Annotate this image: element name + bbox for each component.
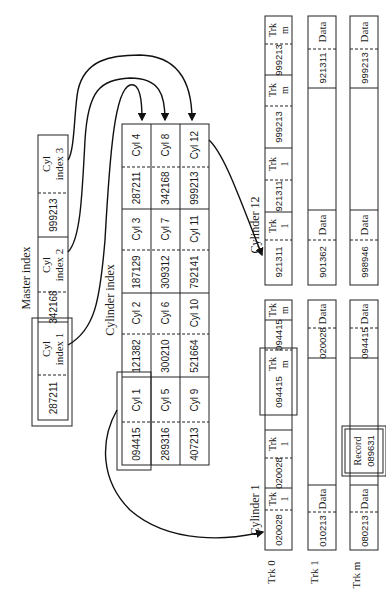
cyl-label: Cyl 1: [131, 388, 142, 411]
c12-idx-key: 999213: [273, 111, 284, 143]
cyl-key: 289316: [160, 427, 171, 461]
cyl-label: Cyl 8: [160, 133, 171, 156]
c12-idx-trk: Trk: [267, 157, 278, 171]
cylinder-12: Cylinder 12 921311 Trk 1 921311 Trk 1 99…: [248, 16, 378, 285]
cyl-label: Cyl 4: [131, 133, 142, 156]
cyl-label: Cyl 12: [189, 130, 200, 159]
cyl-key: 521664: [189, 339, 200, 373]
cyl-key: 121382: [131, 339, 142, 373]
master-index: Master index 287211 Cyl index 1 342168 C…: [19, 135, 72, 426]
c12-t1-key: 901362: [317, 246, 328, 278]
cylinder-1: Cylinder 1 Trk 0 Trk 1 Trk m 020028 Trk …: [248, 300, 386, 588]
c12-idx-num: 1: [279, 162, 290, 167]
indexed-sequential-diagram: Master index 287211 Cyl index 1 342168 C…: [0, 0, 386, 615]
record-label: Record: [352, 437, 363, 466]
master-key-2: 342168: [48, 290, 59, 324]
c12-idx-trk: Trk: [267, 23, 278, 37]
track-label-0: Trk 0: [265, 560, 277, 584]
c12-t1-key: 921311: [317, 53, 328, 84]
cyl-label: Cyl 11: [189, 215, 200, 243]
c1-idx-num: m: [279, 360, 290, 368]
c1-idx-trk: Trk: [267, 303, 278, 317]
c1-t1-label: Data: [316, 304, 328, 325]
cyl-label: Cyl 6: [160, 301, 171, 324]
master-key-1: 287211: [48, 381, 59, 414]
record-highlight: [342, 426, 386, 476]
c12-idx-num: 1: [279, 224, 290, 229]
c12-tm-key: 998946: [359, 246, 370, 278]
c1-idx-key: 094415: [273, 376, 284, 408]
arrow-master-3-to-cyl-12: [68, 55, 192, 160]
cyl-key: 094415: [131, 427, 142, 461]
cyl-label: Cyl 9: [189, 388, 200, 411]
cyl-key: 407213: [189, 427, 200, 461]
cyl-key: 187129: [131, 255, 142, 289]
c1-tm-key: 080213: [359, 515, 370, 547]
cyl-key: 342168: [160, 171, 171, 205]
cylinder-1-title: Cylinder 1: [248, 485, 262, 536]
c12-idx-key: 999213: [273, 44, 284, 76]
c12-idx-trk: Trk: [267, 83, 278, 97]
cyl-label: Cyl 10: [189, 298, 200, 327]
c12-idx-key: 921311: [273, 181, 284, 212]
cyl-label: Cyl 5: [160, 388, 171, 411]
c12-tm-key: 999213: [359, 52, 370, 84]
cyl-label: Cyl 3: [131, 217, 142, 240]
cyl-key: 300210: [160, 339, 171, 373]
c1-tm-label: Data: [358, 304, 370, 325]
c12-idx-num: m: [279, 86, 290, 94]
master-label-2a: Cyl: [40, 257, 52, 273]
c1-tm-label: Data: [358, 489, 370, 510]
arrow-master-2-to-cyl-8: [68, 78, 165, 252]
cyl-key: 999213: [189, 171, 200, 205]
c1-idx-key: 020028: [273, 457, 284, 489]
c1-tm-key: 094415: [359, 327, 370, 359]
cyl-label: Cyl 2: [131, 301, 142, 324]
c1-idx-num: 1: [279, 497, 290, 502]
cyl-key: 792141: [189, 255, 200, 289]
master-label-1b: index 1: [53, 333, 65, 366]
c1-idx-num: m: [279, 306, 290, 314]
c12-tm-label: Data: [358, 215, 370, 236]
cylinder-index: Cylinder index 094415 Cyl 1 121382 Cyl 2…: [103, 124, 209, 470]
track-label-1: Trk 1: [308, 560, 320, 584]
c12-t1-label: Data: [316, 22, 328, 43]
arrow-cyl-1-to-cylinder-1: [106, 410, 263, 538]
cyl-key: 287211: [131, 171, 142, 204]
c1-idx-key: 020028: [273, 514, 284, 546]
c12-idx-trk: Trk: [267, 219, 278, 233]
c12-tm-label: Data: [358, 22, 370, 43]
cylinder-12-title: Cylinder 12: [248, 197, 262, 254]
cyl-label: Cyl 7: [160, 217, 171, 240]
c1-idx-trk: Trk: [267, 492, 278, 506]
c1-t1-key: 020028: [317, 327, 328, 359]
master-label-3a: Cyl: [40, 156, 52, 172]
c1-t1-label: Data: [316, 489, 328, 510]
record-key: 089631: [365, 435, 376, 467]
master-label-3b: index 3: [53, 147, 65, 180]
master-label-1a: Cyl: [40, 341, 52, 357]
c12-idx-num: m: [279, 26, 290, 34]
c1-t1-key: 010213: [317, 515, 328, 547]
c1-idx-num: 1: [279, 442, 290, 447]
c12-idx-key: 921311: [273, 247, 284, 278]
c1-idx-key: 094415: [273, 319, 284, 351]
c1-idx-trk: Trk: [267, 357, 278, 371]
track-label-m: Trk m: [350, 561, 362, 588]
master-index-title: Master index: [19, 247, 33, 310]
master-label-2b: index 2: [53, 249, 65, 282]
master-key-3: 999213: [48, 198, 59, 232]
c12-t1-label: Data: [316, 215, 328, 236]
cylinder-index-title: Cylinder index: [103, 264, 117, 336]
c1-idx-trk: Trk: [267, 437, 278, 451]
cyl-key: 309312: [160, 255, 171, 289]
